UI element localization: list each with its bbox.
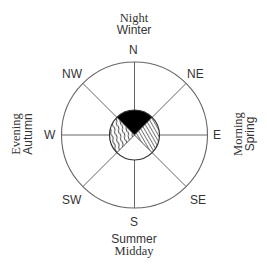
label-se: SE [190,194,206,206]
label-ne: NE [187,68,204,80]
label-s: S [130,216,138,228]
label-w: W [44,129,55,141]
inner-circle [109,110,159,160]
label-nw: NW [62,68,82,80]
caption-north: Night Winter [104,12,164,36]
label-n: N [129,44,138,56]
caption-south: Summer Midday [104,233,164,257]
caption-west-line2: Autumn [22,102,34,166]
caption-north-line2: Winter [104,24,164,36]
caption-west: Evening Autumn [10,102,34,166]
caption-east-line2: Spring [244,102,256,166]
label-e: E [213,129,221,141]
caption-east: Morning Spring [232,102,256,166]
label-sw: SW [62,194,81,206]
caption-south-line2: Midday [104,245,164,257]
